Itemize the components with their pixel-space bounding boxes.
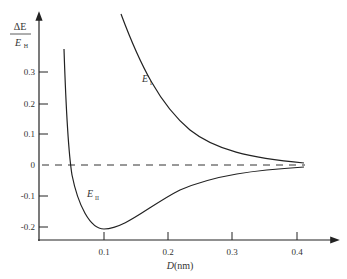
curve-e-ii: [64, 49, 304, 229]
svg-text:E: E: [14, 37, 21, 48]
svg-text:(nm): (nm): [174, 260, 193, 272]
curve-e-i: [121, 14, 304, 163]
svg-text:-0.1: -0.1: [21, 191, 35, 201]
svg-text:0.4: 0.4: [291, 247, 303, 257]
svg-text:ΔE: ΔE: [14, 21, 27, 32]
x-tick-labels: 0.1 0.2 0.3 0.4: [98, 247, 303, 257]
svg-text:-0.2: -0.2: [21, 222, 35, 232]
svg-text:H: H: [24, 43, 29, 49]
x-axis-label: D (nm): [166, 260, 194, 272]
y-ticks: [39, 72, 48, 227]
y-axis-label: ΔE E H: [10, 21, 31, 49]
svg-text:0.1: 0.1: [24, 129, 35, 139]
svg-text:0.3: 0.3: [24, 67, 36, 77]
svg-text:0.2: 0.2: [24, 99, 35, 109]
svg-text:0: 0: [31, 160, 36, 170]
curve-label-e-ii: E II: [86, 188, 99, 201]
svg-text:II: II: [95, 195, 99, 201]
x-ticks: [104, 232, 297, 240]
chart: ΔE E H 0.3 0.2 0.1 0 -0.1 -0.2 0.1 0.2 0…: [0, 0, 347, 279]
svg-text:E: E: [86, 188, 93, 199]
svg-text:I: I: [150, 80, 152, 86]
y-tick-labels: 0.3 0.2 0.1 0 -0.1 -0.2: [21, 67, 36, 232]
svg-text:E: E: [141, 73, 148, 84]
svg-text:0.3: 0.3: [226, 247, 238, 257]
svg-text:0.1: 0.1: [98, 247, 109, 257]
curve-label-e-i: E I: [141, 73, 152, 86]
svg-text:0.2: 0.2: [162, 247, 173, 257]
